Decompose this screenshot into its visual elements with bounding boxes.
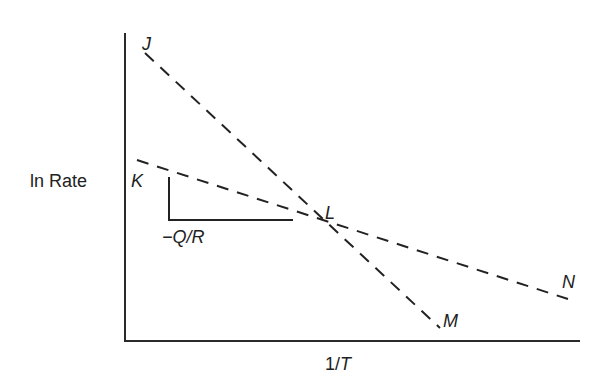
y-axis-label: ln Rate bbox=[30, 171, 87, 191]
x-axis-label: 1/T bbox=[325, 354, 353, 374]
point-label-j: J bbox=[141, 34, 152, 54]
line-j-l-m bbox=[145, 53, 440, 328]
arrhenius-diagram: ln Rate 1/T J K L M N −Q/R bbox=[0, 0, 613, 383]
point-label-l: L bbox=[325, 203, 335, 223]
point-label-k: K bbox=[131, 171, 144, 191]
point-label-n: N bbox=[562, 272, 576, 292]
slope-label: −Q/R bbox=[162, 227, 205, 247]
point-label-m: M bbox=[443, 311, 458, 331]
slope-triangle bbox=[169, 177, 293, 220]
